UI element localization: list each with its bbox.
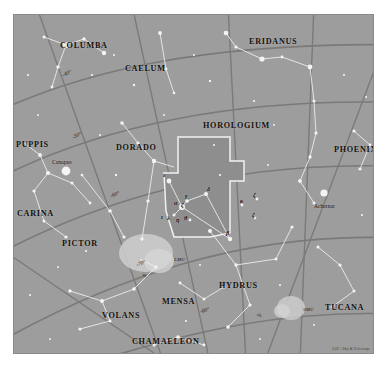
star-point-icon — [154, 265, 157, 268]
star-point-icon — [38, 153, 42, 157]
constellation-label-carina: CARINA — [17, 209, 54, 218]
star-point-icon — [100, 299, 104, 303]
star-point-icon-kappa — [241, 204, 244, 207]
star-point-icon — [317, 246, 320, 249]
star-point-icon — [173, 92, 176, 95]
star-point-icon — [46, 171, 50, 175]
star-point-icon — [308, 155, 311, 158]
constellation-label-phoenix: PHOENIX — [334, 145, 374, 154]
star-point-icon — [152, 159, 156, 163]
bayer-label-alpha: α — [174, 199, 177, 206]
constellation-label-tucana: TUCANA — [325, 303, 364, 312]
constellation-label-dorado: DORADO — [116, 143, 157, 152]
star-point-icon — [89, 202, 92, 205]
star-point-icon-beta — [228, 237, 232, 241]
star-point-icon-achernar — [320, 189, 327, 196]
bayer-label-iota: ι — [161, 213, 163, 220]
star-point-icon — [43, 220, 46, 223]
star-point-icon — [290, 225, 293, 228]
star-point-icon — [248, 303, 251, 306]
star-point-icon — [51, 86, 54, 89]
star-point-icon — [314, 131, 317, 134]
sky-map-frame: COLUMBA ERIDANUS CAELUM HOROLOGIUM PUPPI… — [13, 14, 374, 354]
chart-credit: IAU / Sky & Telescope — [332, 347, 370, 351]
star-point-icon — [208, 229, 212, 233]
star-point-icon — [78, 327, 81, 330]
star-point-icon — [224, 31, 229, 36]
star-point-icon — [120, 121, 124, 125]
star-label-achernar: Achernar — [314, 203, 335, 209]
star-point-icon — [234, 45, 237, 48]
star-point-icon — [203, 344, 206, 347]
dso-label-lmc: LMC — [174, 257, 185, 262]
star-point-icon — [275, 258, 278, 261]
bayer-label-kappa: κ — [240, 197, 243, 204]
star-point-icon — [158, 31, 162, 35]
bayer-label-gamma: γ — [185, 192, 188, 199]
star-point-icon-gamma — [185, 199, 189, 203]
star-point-icon — [122, 235, 125, 238]
star-point-icon — [146, 199, 149, 202]
star-point-icon — [68, 289, 71, 292]
constellation-label-columba: COLUMBA — [60, 41, 108, 50]
constellation-label-pictor: PICTOR — [62, 239, 98, 248]
bayer-label-zeta-a: ζ — [181, 201, 184, 208]
star-point-icon — [338, 263, 341, 266]
star-point-icon — [43, 36, 46, 39]
bayer-label-beta: β — [226, 229, 229, 236]
bayer-label-theta: θ — [184, 214, 187, 221]
star-chart-page: COLUMBA ERIDANUS CAELUM HOROLOGIUM PUPPI… — [0, 0, 385, 368]
star-point-icon-epsilon — [167, 179, 172, 184]
bayer-label-eta: η — [176, 216, 179, 223]
star-point-icon — [71, 182, 74, 185]
star-point-icon-canopus — [62, 167, 71, 176]
star-point-icon — [313, 100, 316, 103]
star-point-icon — [259, 56, 264, 61]
constellation-label-caelum: CAELUM — [125, 64, 166, 73]
star-point-icon — [81, 174, 84, 177]
star-label-canopus: Canopus — [52, 159, 72, 165]
star-point-icon — [234, 263, 237, 266]
constellation-label-volans: VOLANS — [102, 311, 140, 320]
bayer-label-epsilon: ε — [163, 171, 166, 178]
star-point-icon — [298, 179, 302, 183]
star-point-icon — [353, 290, 356, 293]
star-point-icon — [132, 287, 136, 291]
star-point-icon — [203, 298, 206, 301]
constellation-label-horologium: HOROLOGIUM — [203, 121, 270, 130]
star-point-icon — [56, 65, 59, 68]
star-point-icon-delta — [204, 192, 208, 196]
bayer-label-delta: δ — [207, 185, 210, 192]
constellation-label-mensa: MENSA — [162, 297, 195, 306]
star-point-icon-zeta1 — [256, 198, 259, 201]
star-point-icon — [179, 282, 182, 285]
star-point-icon — [140, 237, 143, 240]
star-point-icon — [352, 129, 355, 132]
star-point-icon — [281, 56, 284, 59]
star-point-icon — [226, 325, 230, 329]
star-point-icon — [108, 209, 112, 213]
bayer-label-lambda: λ — [167, 214, 170, 221]
bayer-label-zeta1: ζ — [253, 191, 256, 198]
constellation-label-chamaeleon: CHAMAELEON — [132, 337, 200, 346]
star-point-icon — [102, 51, 106, 55]
sky-background: COLUMBA ERIDANUS CAELUM HOROLOGIUM PUPPI… — [14, 15, 373, 353]
constellation-label-eridanus: ERIDANUS — [249, 37, 297, 46]
star-point-icon-theta — [189, 219, 192, 222]
star-point-icon — [308, 65, 313, 70]
bayer-label-zeta2: ζ — [252, 211, 255, 218]
constellation-label-hydrus: HYDRUS — [219, 281, 258, 290]
star-point-icon — [359, 168, 362, 171]
dso-label-smc: SMC — [303, 307, 314, 312]
star-point-icon — [32, 189, 35, 192]
constellation-label-puppis: PUPPIS — [16, 140, 49, 149]
